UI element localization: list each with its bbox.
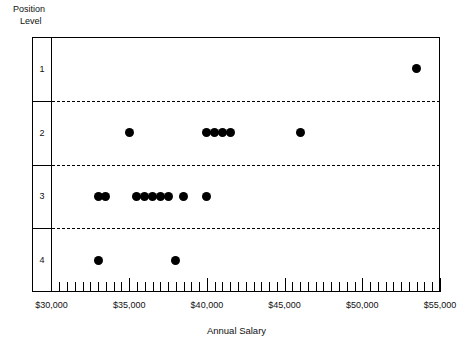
x-axis-minor-tick [176,282,177,292]
x-axis-major-tick [129,278,130,292]
x-axis-minor-tick [75,282,76,292]
x-axis-minor-tick [184,282,185,292]
row-label-level-3: 3 [32,191,52,201]
x-axis-major-tick [440,278,441,292]
x-axis-major-tick [207,278,208,292]
x-axis-minor-tick [386,282,387,292]
x-axis-tick-label: $50,000 [346,300,379,310]
x-axis-minor-tick [121,282,122,292]
x-axis-major-tick [285,278,286,292]
x-axis-minor-tick [370,282,371,292]
x-axis-minor-tick [199,282,200,292]
data-point [171,256,180,265]
row-label-level-2: 2 [32,128,52,138]
x-axis-minor-tick [254,282,255,292]
x-axis-minor-tick [331,282,332,292]
x-axis-title: Annual Salary [0,325,473,336]
x-axis-minor-tick [67,282,68,292]
y-axis-caption-line1: Position [13,4,45,15]
x-axis-minor-tick [316,282,317,292]
row-label-level-1: 1 [32,64,52,74]
x-axis-minor-tick [347,282,348,292]
x-axis-tick-label: $55,000 [424,300,457,310]
x-axis-minor-tick [191,282,192,292]
x-axis-minor-tick [378,282,379,292]
x-axis-minor-tick [59,282,60,292]
y-axis-caption-line2: Level [20,16,42,27]
x-axis-tick-label: $45,000 [268,300,301,310]
x-axis-minor-tick [168,282,169,292]
x-axis-minor-tick [137,282,138,292]
x-axis-minor-tick [261,282,262,292]
x-axis-minor-tick [300,282,301,292]
x-axis-minor-tick [114,282,115,292]
x-axis-major-tick [362,278,363,292]
x-axis-minor-tick [238,282,239,292]
x-axis-minor-tick [339,282,340,292]
row-separator-solid [32,228,52,229]
x-axis-minor-tick [90,282,91,292]
x-axis-minor-tick [230,282,231,292]
x-axis-minor-tick [98,282,99,292]
x-axis-minor-tick [145,282,146,292]
x-axis-minor-tick [153,282,154,292]
x-axis-minor-tick [393,282,394,292]
x-axis-tick-label: $30,000 [35,300,68,310]
row-separator-solid [32,165,52,166]
x-axis-minor-tick [409,282,410,292]
x-axis-minor-tick [401,282,402,292]
row-separator-dashed [52,228,440,229]
x-axis-minor-tick [424,282,425,292]
x-axis-minor-tick [355,282,356,292]
x-axis-minor-tick [246,282,247,292]
data-point [179,192,188,201]
x-axis-minor-tick [83,282,84,292]
x-axis-tick-label: $40,000 [191,300,224,310]
x-axis-tick-label: $35,000 [113,300,146,310]
x-axis-minor-tick [432,282,433,292]
x-axis-minor-tick [106,282,107,292]
x-axis-minor-tick [269,282,270,292]
row-separator-dashed [52,101,440,102]
x-axis-minor-tick [222,282,223,292]
x-axis-minor-tick [160,282,161,292]
row-label-level-4: 4 [32,255,52,265]
x-axis-minor-tick [308,282,309,292]
row-separator-solid [32,101,52,102]
data-point [226,128,235,137]
row-separator-dashed [52,165,440,166]
x-axis-minor-tick [277,282,278,292]
data-point [296,128,305,137]
x-axis-minor-tick [417,282,418,292]
scatter-plot-figure: Position Level 1234 $30,000$35,000$40,00… [0,0,473,350]
x-axis-minor-tick [323,282,324,292]
x-axis-minor-tick [215,282,216,292]
data-point [94,256,103,265]
data-point [164,192,173,201]
data-point [125,128,134,137]
x-axis-minor-tick [292,282,293,292]
